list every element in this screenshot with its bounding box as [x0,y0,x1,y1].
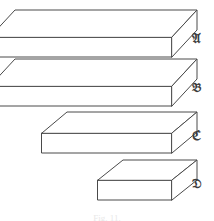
bar-label-d: 𝔇 [192,177,202,190]
bar-c-top-face [42,112,197,133]
bar-a-shape [0,10,197,57]
figure-caption: Fig. 11. [0,213,214,221]
bar-c-front-face [42,133,172,153]
bar-a-front-face [0,37,172,57]
figure-container: 𝔄 𝔅 ℭ 𝔇 Fig. 11. [0,0,214,221]
bar-b-front-face [0,86,172,106]
bar-b-shape [0,59,197,106]
bar-a-top-face [0,10,197,37]
bar-d-front-face [98,180,172,200]
bar-b-top-face [0,59,197,86]
bar-d-shape [98,160,197,200]
bar-label-c: ℭ [192,129,201,142]
bar-label-a: 𝔄 [192,32,201,45]
bar-c-shape [42,112,197,153]
bar-label-b: 𝔅 [192,81,201,94]
bars-drawing [0,0,214,221]
